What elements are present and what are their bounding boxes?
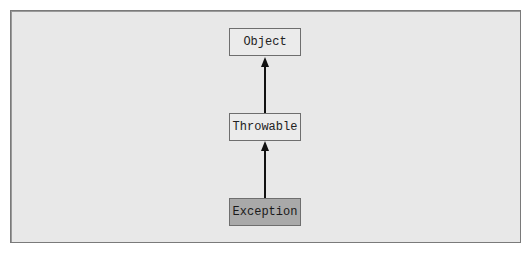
node-throwable-label: Throwable <box>233 120 298 134</box>
arrow-throwable-to-object <box>261 57 269 113</box>
node-exception: Exception <box>229 198 301 226</box>
node-object: Object <box>229 28 301 56</box>
node-throwable: Throwable <box>229 113 301 141</box>
node-exception-label: Exception <box>233 205 298 219</box>
arrow-exception-to-throwable <box>261 141 269 198</box>
node-object-label: Object <box>243 35 286 49</box>
